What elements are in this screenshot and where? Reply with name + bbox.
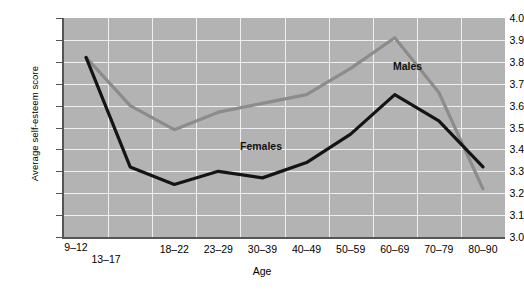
series-line-females	[86, 57, 483, 184]
series-label-females: Females	[240, 140, 282, 152]
x-axis-title: Age	[0, 265, 524, 277]
chart-figure: Average self-esteem score 3.03.13.23.33.…	[0, 0, 524, 290]
series-label-males: Males	[393, 60, 422, 72]
